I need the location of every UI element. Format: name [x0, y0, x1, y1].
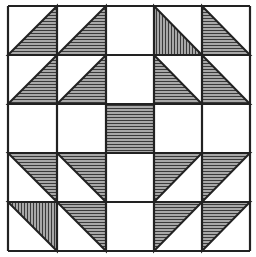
shaded-triangle — [154, 202, 202, 251]
shaded-triangle — [57, 202, 106, 251]
shaded-triangle — [57, 153, 106, 202]
shaded-triangle — [8, 202, 57, 251]
shaded-triangle — [154, 55, 202, 104]
shaded-triangle — [57, 55, 106, 104]
shaded-triangle — [202, 202, 250, 251]
shaded-triangle — [106, 104, 154, 153]
shaded-triangle — [154, 153, 202, 202]
shaded-triangle — [202, 153, 250, 202]
shaded-triangle — [202, 55, 250, 104]
shaded-triangle — [8, 55, 57, 104]
shaded-triangle — [57, 6, 106, 55]
shaded-triangle — [202, 6, 250, 55]
quilt-block — [0, 0, 256, 257]
shaded-triangle — [8, 6, 57, 55]
shaded-triangle — [154, 6, 202, 55]
shaded-triangle — [8, 153, 57, 202]
shaded-patches — [8, 6, 250, 251]
